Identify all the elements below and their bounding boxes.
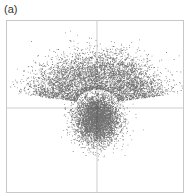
scatter-plot [7, 21, 184, 193]
scatter-plot-frame [6, 20, 184, 193]
panel-label: (a) [4, 3, 17, 15]
